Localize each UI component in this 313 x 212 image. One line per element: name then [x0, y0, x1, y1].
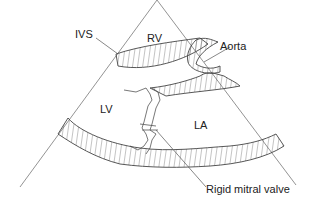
echo-diagram: IVS RV Aorta LV LA Rigid mitral valve	[0, 0, 313, 212]
label-lv: LV	[100, 104, 113, 115]
label-rigid-mitral-valve: Rigid mitral valve	[206, 184, 290, 195]
label-rv: RV	[147, 33, 162, 44]
label-aorta: Aorta	[220, 41, 246, 52]
mitral-valve-posterior-leaflet	[146, 88, 160, 154]
ivs-leader	[96, 38, 118, 54]
label-ivs: IVS	[75, 29, 93, 40]
label-la: LA	[194, 120, 207, 131]
mitral-valve-anterior-leaflet	[124, 88, 152, 150]
posterior-wall	[58, 118, 284, 167]
